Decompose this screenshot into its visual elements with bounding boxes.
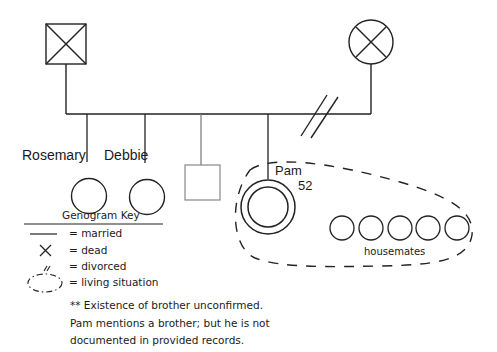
pam-age-label: 52: [298, 178, 312, 193]
key-note-line-3: documented in provided records.: [70, 334, 244, 346]
brother-square-icon: [185, 165, 220, 200]
divorce-slash-icon: [301, 95, 338, 138]
rosemary-label: Rosemary: [22, 147, 86, 163]
key-title: Genogram Key: [62, 209, 140, 221]
debbie-label: Debbie: [104, 147, 148, 163]
key-living-situation-ellipse-icon: [28, 274, 62, 292]
key-divorced-slash-icon: [44, 266, 50, 271]
key-note-line-2: Pam mentions a brother; but he is not: [70, 317, 270, 329]
father-deceased-square-icon: [46, 24, 86, 64]
key-note-line-1: ** Existence of brother unconfirmed.: [70, 299, 263, 311]
living-situation-enclosure-icon: [235, 162, 472, 267]
housemates-circles-icon: [330, 216, 469, 240]
housemates-label: housemates: [364, 246, 425, 257]
mother-deceased-circle-icon: [349, 20, 393, 64]
key-label-divorced: = divorced: [69, 260, 126, 272]
pam-name-label: Pam: [275, 163, 302, 178]
key-dead-x-icon: [40, 245, 51, 256]
marriage-line: [66, 64, 371, 114]
key-label-dead: = dead: [69, 244, 107, 256]
key-label-married: = married: [69, 227, 122, 239]
key-label-living-situation: = living situation: [69, 276, 158, 288]
pam-double-circle-icon: [241, 180, 295, 234]
